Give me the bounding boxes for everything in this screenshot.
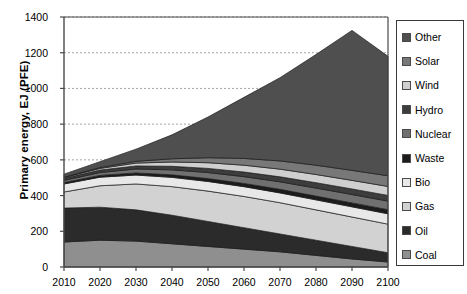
legend-swatch-icon xyxy=(402,129,411,138)
legend-swatch-icon xyxy=(402,202,411,211)
primary-energy-stacked-area-chart: Primary energy, EJ (PFE) 020040060080010… xyxy=(0,0,467,294)
legend-item-label: Bio xyxy=(415,176,430,188)
legend-item-solar[interactable]: Solar xyxy=(397,49,463,73)
legend-swatch-icon xyxy=(402,81,411,90)
legend-item-waste[interactable]: Waste xyxy=(397,146,463,170)
legend-swatch-icon xyxy=(402,178,411,187)
legend-item-bio[interactable]: Bio xyxy=(397,170,463,194)
legend-swatch-icon xyxy=(402,33,411,42)
legend-item-label: Oil xyxy=(415,225,428,237)
legend-item-label: Coal xyxy=(415,249,437,261)
legend-swatch-icon xyxy=(402,105,411,114)
x-axis-tick-labels: 2010202020302040205020602070208020902100 xyxy=(0,270,467,290)
legend-item-other[interactable]: Other xyxy=(397,25,463,49)
legend-item-label: Gas xyxy=(415,200,434,212)
legend-swatch-icon xyxy=(402,226,411,235)
x-tick-label: 2100 xyxy=(365,276,411,288)
legend-item-label: Hydro xyxy=(415,104,443,116)
legend-swatch-icon xyxy=(402,154,411,163)
legend-item-label: Wind xyxy=(415,79,439,91)
legend-item-gas[interactable]: Gas xyxy=(397,194,463,218)
legend-item-coal[interactable]: Coal xyxy=(397,243,463,267)
legend-item-hydro[interactable]: Hydro xyxy=(397,98,463,122)
legend-item-label: Solar xyxy=(415,55,440,67)
legend: OtherSolarWindHydroNuclearWasteBioGasOil… xyxy=(396,20,464,266)
legend-item-label: Waste xyxy=(415,152,444,164)
legend-item-label: Nuclear xyxy=(415,128,451,140)
legend-swatch-icon xyxy=(402,250,411,259)
legend-item-nuclear[interactable]: Nuclear xyxy=(397,122,463,146)
legend-item-label: Other xyxy=(415,31,441,43)
legend-item-oil[interactable]: Oil xyxy=(397,219,463,243)
legend-item-wind[interactable]: Wind xyxy=(397,73,463,97)
legend-swatch-icon xyxy=(402,57,411,66)
